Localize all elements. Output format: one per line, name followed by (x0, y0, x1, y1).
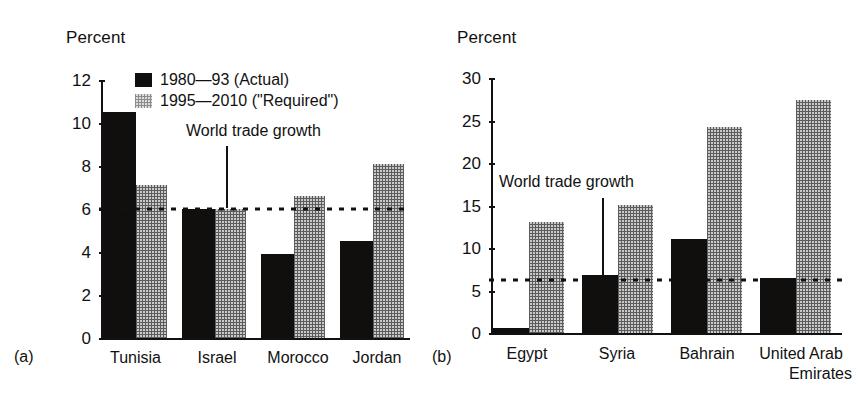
panel-b-ytick-label-5: 5 (472, 282, 481, 299)
panel-a-plot-area: 12 10 8 6 4 2 0 (101, 80, 410, 338)
bar-jordan-actual (340, 241, 373, 338)
panel-b-ytick-20: 20 (489, 163, 495, 165)
legend-label-required: 1995—2010 ("Required") (160, 92, 339, 110)
chart-panel-a: Percent (a) 12 10 8 6 4 2 (0, 0, 430, 405)
panel-a-category-tunisia: Tunisia (88, 348, 183, 368)
legend-entry-actual: 1980—93 (Actual) (135, 69, 339, 90)
panel-b-ytick-5: 5 (489, 291, 495, 293)
panel-b-plot-area: 30 25 20 15 10 5 0 (491, 78, 842, 333)
panel-a-ytick-label-6: 6 (82, 201, 91, 218)
bar-morocco-actual (261, 254, 294, 338)
panel-b-annotation-label: World trade growth (499, 173, 634, 191)
panel-b-ytick-15: 15 (489, 206, 495, 208)
panel-a-annotation-leader (226, 146, 228, 208)
bar-israel-actual (182, 209, 215, 338)
bar-uae-required (796, 100, 831, 333)
panel-a-ytick-label-4: 4 (82, 244, 91, 261)
panel-b-ytick-label-0: 0 (472, 325, 481, 342)
legend-label-actual: 1980—93 (Actual) (160, 71, 289, 89)
panel-a-ytick-12: 12 (99, 80, 105, 82)
panel-b-ytick-0: 0 (489, 333, 495, 335)
bar-morocco-required (294, 196, 325, 338)
bar-tunisia-actual (103, 112, 136, 338)
panel-b-tag: (b) (432, 348, 452, 366)
panel-b-category-uae-line2: Emirates (746, 364, 856, 384)
panel-a-tag: (a) (14, 348, 34, 366)
legend-swatch-required-icon (135, 94, 152, 108)
figure-container: Percent (a) 12 10 8 6 4 2 (0, 0, 861, 405)
panel-a-ytick-label-2: 2 (82, 287, 91, 304)
panel-b-category-uae-line1: United Arab (746, 344, 856, 364)
panel-b-reference-line (489, 278, 843, 282)
panel-b-category-bahrain: Bahrain (662, 344, 752, 364)
bar-israel-required (215, 209, 246, 338)
panel-b-category-uae: United Arab Emirates (746, 344, 856, 384)
chart-panel-b: Percent (b) 30 25 20 15 10 5 (430, 0, 861, 405)
bar-uae-actual (760, 278, 796, 333)
panel-b-ytick-label-30: 30 (462, 70, 481, 87)
panel-a-ytick-label-0: 0 (82, 330, 91, 347)
panel-b-category-egypt: Egypt (482, 344, 572, 364)
bar-syria-required (618, 205, 653, 333)
panel-a-x-axis (99, 338, 410, 340)
panel-a-ytick-label-10: 10 (72, 115, 91, 132)
panel-a-legend: 1980—93 (Actual) 1995—2010 ("Required") (135, 69, 339, 111)
panel-b-ytick-label-15: 15 (462, 197, 481, 214)
panel-b-ytick-30: 30 (489, 78, 495, 80)
panel-b-ytick-label-25: 25 (462, 112, 481, 129)
panel-a-annotation-label: World trade growth (186, 122, 321, 140)
panel-b-category-syria: Syria (572, 344, 662, 364)
panel-a-ytick-label-8: 8 (82, 158, 91, 175)
panel-b-ytick-label-10: 10 (462, 240, 481, 257)
legend-entry-required: 1995—2010 ("Required") (135, 90, 339, 111)
panel-a-ytick-label-12: 12 (72, 72, 91, 89)
panel-b-x-axis (489, 333, 842, 335)
panel-b-ytick-25: 25 (489, 121, 495, 123)
panel-a-reference-line (99, 207, 411, 211)
bar-jordan-required (373, 164, 404, 338)
panel-b-axis-title: Percent (457, 28, 516, 48)
panel-a-category-jordan: Jordan (332, 348, 422, 368)
bar-bahrain-actual (671, 239, 707, 333)
panel-b-annotation-leader (602, 198, 604, 280)
panel-a-axis-title: Percent (66, 28, 125, 48)
panel-a-ytick-0: 0 (99, 338, 105, 340)
bar-egypt-actual (493, 328, 529, 333)
panel-b-ytick-10: 10 (489, 248, 495, 250)
bar-bahrain-required (707, 127, 742, 333)
panel-b-ytick-label-20: 20 (462, 155, 481, 172)
legend-swatch-actual-icon (135, 73, 152, 87)
bar-syria-actual (582, 275, 618, 333)
